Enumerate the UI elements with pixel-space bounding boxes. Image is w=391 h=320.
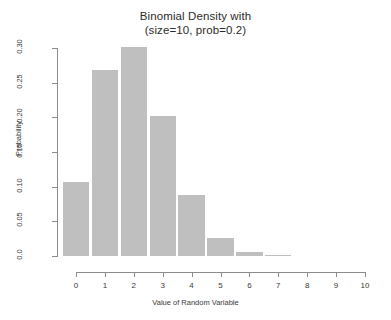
x-axis-tick-label: 7 bbox=[263, 281, 293, 290]
x-axis-tick-label: 2 bbox=[119, 281, 149, 290]
bar bbox=[121, 47, 147, 256]
x-axis-tick bbox=[249, 272, 250, 277]
y-axis-tick-label: 0.30 bbox=[15, 22, 24, 72]
y-axis-tick bbox=[52, 48, 57, 49]
x-axis-tick-label: 6 bbox=[234, 281, 264, 290]
y-axis-line bbox=[57, 48, 58, 257]
x-axis-tick-label: 10 bbox=[350, 281, 380, 290]
x-axis-tick-label: 4 bbox=[177, 281, 207, 290]
bar bbox=[178, 195, 204, 256]
bar bbox=[150, 116, 176, 256]
x-axis-tick bbox=[336, 272, 337, 277]
x-axis-label: Value of Random Variable bbox=[0, 298, 391, 307]
x-axis-tick-label: 0 bbox=[61, 281, 91, 290]
y-axis-tick bbox=[52, 256, 57, 257]
binomial-density-chart: Binomial Density with (size=10, prob=0.2… bbox=[0, 0, 391, 320]
x-axis-tick bbox=[307, 272, 308, 277]
bar bbox=[207, 238, 233, 256]
x-axis-tick bbox=[163, 272, 164, 277]
y-axis-tick bbox=[52, 83, 57, 84]
x-axis-tick-label: 8 bbox=[292, 281, 322, 290]
x-axis-tick-label: 1 bbox=[90, 281, 120, 290]
bar bbox=[236, 252, 262, 256]
x-axis-tick bbox=[105, 272, 106, 277]
x-axis-tick bbox=[221, 272, 222, 277]
y-axis-tick bbox=[52, 221, 57, 222]
x-axis-tick bbox=[365, 272, 366, 277]
y-axis-tick bbox=[52, 117, 57, 118]
chart-title-line-2: (size=10, prob=0.2) bbox=[0, 23, 391, 37]
bar bbox=[63, 182, 89, 256]
bar bbox=[92, 70, 118, 256]
x-axis-tick-label: 9 bbox=[321, 281, 351, 290]
x-axis-tick bbox=[76, 272, 77, 277]
x-axis-tick-label: 3 bbox=[148, 281, 178, 290]
x-axis-tick bbox=[278, 272, 279, 277]
y-axis-tick bbox=[52, 152, 57, 153]
chart-title: Binomial Density with (size=10, prob=0.2… bbox=[0, 9, 391, 37]
bar bbox=[265, 255, 291, 256]
x-axis-tick bbox=[192, 272, 193, 277]
y-axis-tick bbox=[52, 187, 57, 188]
x-axis-tick bbox=[134, 272, 135, 277]
x-axis-tick-label: 5 bbox=[206, 281, 236, 290]
chart-title-line-1: Binomial Density with bbox=[0, 9, 391, 23]
